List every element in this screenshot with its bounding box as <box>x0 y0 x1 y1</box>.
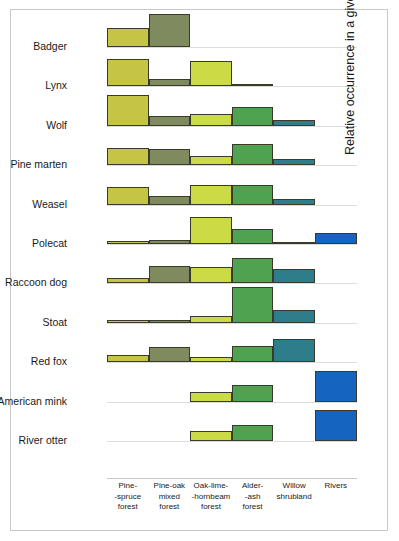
bar-alder_ash <box>232 144 274 165</box>
x-axis-tick-labels: Pine--spruceforestPine-oakmixedforestOak… <box>105 481 359 527</box>
bar-rivers <box>315 371 357 402</box>
bar-pine_spruce <box>107 95 149 125</box>
row-baseline <box>107 441 357 442</box>
x-tick-label-line: forest <box>190 502 232 513</box>
bar-alder_ash <box>232 84 274 87</box>
x-tick-label-line: Oak-lime- <box>190 481 232 492</box>
bar-oak_lime_hornbeam <box>190 114 232 126</box>
species-label: Weasel <box>0 199 67 210</box>
plot-area: BadgerLynxWolfPine martenWeaselPolecatRa… <box>0 0 399 541</box>
species-label: American mink <box>0 396 67 407</box>
bar-pine_oak <box>149 149 191 165</box>
bar-pine_spruce <box>107 278 149 283</box>
x-tick-label-line: shrubland <box>273 492 315 503</box>
bar-oak_lime_hornbeam <box>190 357 232 362</box>
species-label: Polecat <box>0 238 67 249</box>
x-tick-label-line: forest <box>107 502 149 513</box>
species-label: Wolf <box>0 120 67 131</box>
species-label: Lynx <box>0 80 67 91</box>
bar-pine_oak <box>149 240 191 244</box>
x-tick-label-line: forest <box>232 502 274 513</box>
bar-willow_shrubland <box>273 199 315 205</box>
x-tick-label-line: Alder- <box>232 481 274 492</box>
x-tick-label-line: Rivers <box>315 481 357 492</box>
bar-willow_shrubland <box>273 269 315 284</box>
bar-pine_spruce <box>107 241 149 244</box>
bar-pine_spruce <box>107 28 149 47</box>
bar-pine_spruce <box>107 320 149 323</box>
x-tick-label-line: Pine-oak <box>149 481 191 492</box>
bar-pine_oak <box>149 320 191 323</box>
bar-alder_ash <box>232 229 274 244</box>
bar-pine_oak <box>149 14 191 47</box>
bar-rivers <box>315 233 357 244</box>
bar-oak_lime_hornbeam <box>190 185 232 204</box>
bar-oak_lime_hornbeam <box>190 267 232 283</box>
bar-alder_ash <box>232 425 274 441</box>
row-baseline <box>107 165 357 166</box>
bar-pine_oak <box>149 79 191 87</box>
bar-pine_oak <box>149 347 191 363</box>
x-tick-label-line: -ash <box>232 492 274 503</box>
bar-alder_ash <box>232 107 274 126</box>
row-baseline <box>107 126 357 127</box>
bar-oak_lime_hornbeam <box>190 392 232 402</box>
chart-figure: BadgerLynxWolfPine martenWeaselPolecatRa… <box>0 0 399 541</box>
row-baseline <box>107 86 357 87</box>
bar-alder_ash <box>232 258 274 284</box>
species-label: River otter <box>0 435 67 446</box>
bar-pine_oak <box>149 116 191 126</box>
bar-alder_ash <box>232 346 274 362</box>
x-tick-label-line: Willow <box>273 481 315 492</box>
bar-rivers <box>315 410 357 441</box>
x-tick-label: Willowshrubland <box>273 481 315 502</box>
x-tick-label: Pine--spruceforest <box>107 481 149 513</box>
row-baseline <box>107 323 357 324</box>
bar-pine_spruce <box>107 355 149 362</box>
x-tick-label-line: -spruce <box>107 492 149 503</box>
x-tick-label-line: Pine- <box>107 481 149 492</box>
bar-willow_shrubland <box>273 310 315 323</box>
x-tick-label-line: forest <box>149 502 191 513</box>
bar-oak_lime_hornbeam <box>190 217 232 244</box>
row-baseline <box>107 283 357 284</box>
bar-alder_ash <box>232 385 274 401</box>
x-tick-label: Oak-lime--hornbeamforest <box>190 481 232 513</box>
bar-pine_spruce <box>107 148 149 165</box>
species-label: Badger <box>0 41 67 52</box>
bar-pine_spruce <box>107 187 149 205</box>
species-label: Pine marten <box>0 159 67 170</box>
bar-oak_lime_hornbeam <box>190 431 232 441</box>
x-tick-label: Pine-oakmixedforest <box>149 481 191 513</box>
bar-pine_oak <box>149 196 191 204</box>
row-baseline <box>107 47 357 48</box>
x-tick-label-line: mixed <box>149 492 191 503</box>
bar-oak_lime_hornbeam <box>190 156 232 166</box>
x-tick-label-line: -hornbeam <box>190 492 232 503</box>
bar-pine_oak <box>149 266 191 284</box>
row-baseline <box>107 205 357 206</box>
bar-willow_shrubland <box>273 339 315 363</box>
species-label: Stoat <box>0 317 67 328</box>
bar-pine_spruce <box>107 59 149 86</box>
bar-alder_ash <box>232 185 274 205</box>
species-label: Red fox <box>0 356 67 367</box>
row-baseline <box>107 362 357 363</box>
x-tick-label: Rivers <box>315 481 357 492</box>
x-tick-label: Alder--ashforest <box>232 481 274 513</box>
bar-willow_shrubland <box>273 120 315 126</box>
bar-willow_shrubland <box>273 242 315 245</box>
bar-oak_lime_hornbeam <box>190 316 232 323</box>
bar-willow_shrubland <box>273 159 315 165</box>
species-label: Raccoon dog <box>0 277 67 288</box>
x-axis-line <box>107 478 357 479</box>
row-baseline <box>107 402 357 403</box>
bar-alder_ash <box>232 287 274 323</box>
y-axis-title: Relative occurrence in a given habitat <box>343 0 357 155</box>
bar-oak_lime_hornbeam <box>190 61 232 86</box>
row-baseline <box>107 244 357 245</box>
